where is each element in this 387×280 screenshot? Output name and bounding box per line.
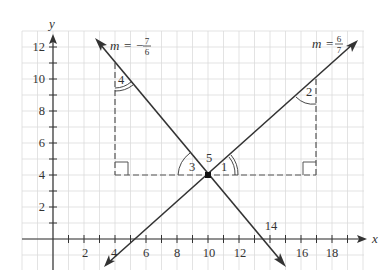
y-tick-label: 2 xyxy=(39,200,45,214)
y-tick-label: 12 xyxy=(33,40,46,54)
angle-1-arc xyxy=(231,155,238,175)
slope-numerator: 7 xyxy=(145,36,150,46)
x-tick-label: 6 xyxy=(143,246,149,260)
x-tick-label: 16 xyxy=(296,246,309,260)
angle-label-1: 1 xyxy=(221,160,227,174)
slope-denominator: 6 xyxy=(145,47,150,57)
axis-ticks xyxy=(49,47,348,243)
slope-m: m xyxy=(312,36,321,51)
slope-sign: − xyxy=(136,38,143,53)
angle-label-2: 2 xyxy=(306,85,312,99)
intersection-point xyxy=(205,172,211,178)
y-tick-label: 4 xyxy=(39,168,46,182)
lines xyxy=(100,44,353,263)
x-tick-label: 18 xyxy=(326,246,339,260)
y-tick-label: 10 xyxy=(33,72,46,86)
coordinate-diagram: x y 2 4 6 8 10 12 16 18 14 2 4 6 8 10 12 xyxy=(0,0,387,280)
grid xyxy=(22,31,364,270)
y-tick-label: 6 xyxy=(39,136,45,150)
x-tick-label: 8 xyxy=(174,246,180,260)
right-angle-mark-left xyxy=(115,162,128,175)
x-tick-label-14: 14 xyxy=(265,219,278,233)
y-axis-label: y xyxy=(47,16,55,31)
angle-label-3: 3 xyxy=(189,160,195,174)
x-tick-label: 2 xyxy=(82,246,88,260)
x-axis-label: x xyxy=(371,231,378,246)
angle-label-5: 5 xyxy=(206,151,212,165)
slope-m: m xyxy=(110,38,119,53)
right-angle-mark-right xyxy=(303,162,316,175)
slope-denominator: 7 xyxy=(337,45,342,55)
slope-eq: = xyxy=(326,36,333,51)
y-tick-label: 8 xyxy=(39,104,45,118)
x-tick-label: 10 xyxy=(203,246,216,260)
axes xyxy=(22,34,367,270)
angle-label-4: 4 xyxy=(118,73,125,87)
x-tick-label: 12 xyxy=(234,246,247,260)
slope-numerator: 6 xyxy=(337,34,342,44)
line-arrowheads xyxy=(95,38,358,267)
slope-eq: = xyxy=(124,38,131,53)
